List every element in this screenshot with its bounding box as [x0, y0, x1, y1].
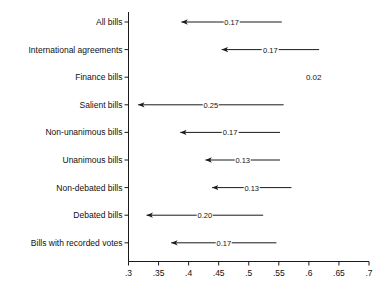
value-label: 0.17: [262, 45, 279, 54]
arrow-range-chart: All billsInternational agreementsFinance…: [0, 0, 386, 295]
value-label: 0.25: [203, 100, 220, 109]
category-label: Salient bills: [80, 100, 123, 110]
category-label: International agreements: [28, 45, 122, 55]
x-tick-label: .6: [305, 268, 312, 278]
value-label: 0.13: [234, 156, 251, 165]
value-label: 0.17: [215, 238, 232, 247]
category-label: Non-debated bills: [56, 183, 122, 193]
x-tick-label: .35: [153, 268, 165, 278]
x-tick-label: .65: [333, 268, 345, 278]
x-tick-label: .55: [273, 268, 285, 278]
x-tick-label: .45: [213, 268, 225, 278]
x-tick-label: .5: [245, 268, 252, 278]
value-label: 0.17: [222, 128, 239, 137]
category-label: Unanimous bills: [63, 155, 123, 165]
category-label: Non-unanimous bills: [45, 127, 122, 137]
value-label: 0.17: [223, 18, 240, 27]
category-label: Debated bills: [73, 210, 122, 220]
value-label: 0.02: [305, 73, 323, 82]
value-label: 0.20: [197, 211, 214, 220]
category-label: Finance bills: [75, 72, 122, 82]
x-tick-label: .3: [125, 268, 132, 278]
value-label: 0.13: [243, 183, 260, 192]
category-label: Bills with recorded votes: [31, 238, 123, 248]
category-label: All bills: [96, 17, 122, 27]
x-tick-label: .7: [365, 268, 372, 278]
x-tick-label: .4: [185, 268, 192, 278]
